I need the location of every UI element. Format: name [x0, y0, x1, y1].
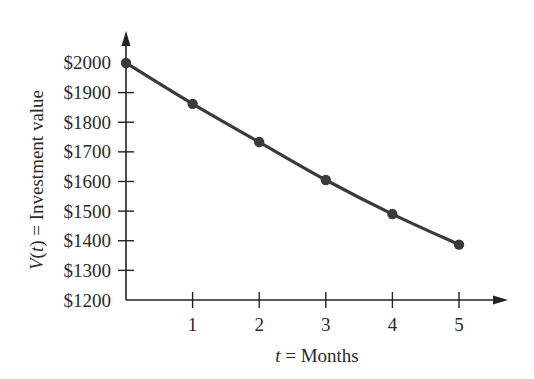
y-tick-label: $1700: [64, 141, 112, 162]
data-point-marker: [187, 99, 197, 109]
x-axis-arrow-icon: [493, 296, 508, 305]
series-line: [126, 63, 459, 245]
data-point-marker: [121, 58, 131, 68]
y-axis-title: V(t) = Investment value: [26, 90, 48, 270]
y-tick-label: $1900: [64, 82, 112, 103]
data-point-marker: [321, 175, 331, 185]
x-axis-title: t = Months: [275, 345, 359, 366]
data-point-marker: [254, 137, 264, 147]
x-tick-label: 4: [388, 314, 398, 335]
y-tick-label: $1500: [64, 201, 112, 222]
axes: [122, 31, 509, 305]
data-point-marker: [454, 239, 464, 249]
y-tick-label: $2000: [64, 52, 112, 73]
x-axis-ticks: 12345: [188, 292, 464, 335]
y-tick-label: $1800: [64, 112, 112, 133]
y-axis-ticks: $1200$1300$1400$1500$1600$1700$1800$1900…: [64, 52, 135, 310]
y-tick-label: $1300: [64, 260, 112, 281]
x-tick-label: 5: [454, 314, 464, 335]
data-point-markers: [121, 58, 464, 250]
data-point-marker: [387, 209, 397, 219]
y-tick-label: $1600: [64, 171, 112, 192]
x-tick-label: 1: [188, 314, 198, 335]
y-tick-label: $1200: [64, 290, 112, 311]
line-chart: $1200$1300$1400$1500$1600$1700$1800$1900…: [0, 0, 534, 379]
y-axis-arrow-icon: [122, 31, 131, 46]
y-tick-label: $1400: [64, 230, 112, 251]
x-tick-label: 2: [254, 314, 264, 335]
x-tick-label: 3: [321, 314, 331, 335]
